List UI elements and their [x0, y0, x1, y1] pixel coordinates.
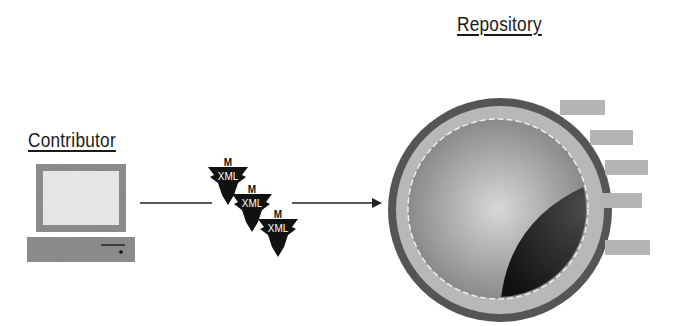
computer-base: [27, 237, 135, 262]
repository-stripe: [560, 100, 605, 115]
arrowhead-icon: [372, 198, 382, 208]
monitor-screen: [43, 171, 119, 225]
svg-text:XML: XML: [218, 171, 239, 182]
repository-sphere-icon: [388, 98, 650, 322]
diagram-canvas: M XML M XML M XML: [0, 0, 675, 326]
repository-stripe: [605, 240, 650, 255]
svg-text:M: M: [224, 157, 232, 168]
svg-text:XML: XML: [242, 198, 263, 209]
repository-stripe: [590, 130, 633, 145]
svg-text:M: M: [248, 184, 256, 195]
svg-text:XML: XML: [268, 223, 289, 234]
repository-stripe: [600, 193, 642, 208]
svg-text:M: M: [274, 209, 282, 220]
repository-stripe: [605, 160, 648, 175]
computer-icon: [27, 164, 135, 262]
xml-document-icon: M XML M XML M XML: [208, 157, 298, 257]
